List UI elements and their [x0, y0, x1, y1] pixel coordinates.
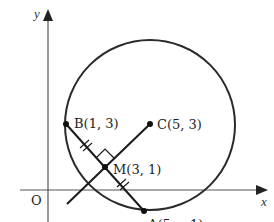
axes: x y O: [20, 6, 268, 222]
origin-label: O: [31, 193, 42, 208]
label-c: C(5, 3): [157, 117, 202, 132]
right-angle-mark: [96, 149, 114, 158]
point-m: [102, 164, 108, 170]
point-b: [63, 121, 69, 127]
point-a: [141, 208, 147, 214]
y-axis-label: y: [32, 6, 40, 21]
geometry-diagram: x y O B(1, 3) C(5, 3) M(3, 1) A(5, −1): [0, 0, 274, 222]
point-c: [147, 121, 153, 127]
label-m: M(3, 1): [113, 162, 161, 177]
x-axis-label: x: [260, 194, 267, 209]
label-b: B(1, 3): [74, 116, 119, 131]
label-a: A(5, −1): [147, 217, 203, 222]
y-axis-arrow-icon: [43, 9, 53, 21]
